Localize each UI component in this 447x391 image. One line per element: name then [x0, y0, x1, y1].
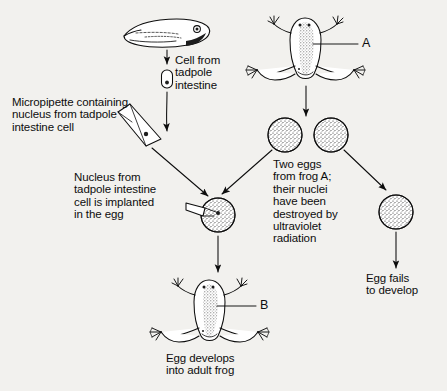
- failing-egg: [379, 195, 413, 229]
- injected-egg: [186, 198, 235, 232]
- label-egg-develops: Egg develops into adult frog: [166, 352, 235, 377]
- label-two-eggs: Two eggs from frog A; their nuclei have …: [273, 158, 338, 245]
- diagram-canvas: Cell from tadpole intestine Micropipette…: [0, 0, 447, 391]
- diagram-artwork: [0, 0, 447, 391]
- enucleated-egg-left: [268, 118, 302, 152]
- label-frog-a: A: [362, 37, 370, 50]
- label-frog-b: B: [260, 299, 268, 312]
- label-egg-fails: Egg fails to develop: [366, 272, 418, 297]
- arrow-pipette-to-egg: [152, 148, 208, 196]
- enucleated-egg-right: [314, 118, 348, 152]
- arrow-egg-right-to-failed: [344, 150, 386, 190]
- arrow-egg-left-to-injected: [222, 150, 272, 194]
- label-cell-from-tadpole-intestine: Cell from tadpole intestine: [175, 54, 220, 91]
- label-nucleus-implanted: Nucleus from tadpole intestine cell is i…: [74, 171, 156, 221]
- label-micropipette: Micropipette containing nucleus from tad…: [12, 96, 128, 133]
- intestine-cell-drawing: [162, 70, 173, 88]
- adult-frog-a-drawing: [246, 16, 365, 80]
- tadpole-drawing: [124, 19, 210, 47]
- adult-frog-b-drawing: [150, 278, 269, 342]
